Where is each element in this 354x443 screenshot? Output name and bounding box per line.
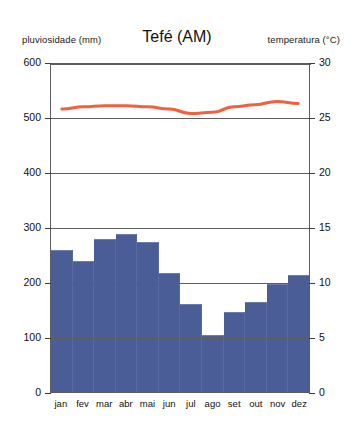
precipitation-bar bbox=[245, 302, 267, 392]
month-label: jan bbox=[50, 398, 72, 409]
month-label: out bbox=[245, 398, 267, 409]
climograph-figure: pluviosidade (mm) Tefé (AM) temperatura … bbox=[0, 0, 354, 443]
left-tick-label: 600 bbox=[23, 57, 41, 68]
axis-tick bbox=[309, 283, 315, 284]
left-tick-label: 500 bbox=[23, 112, 41, 123]
gridline bbox=[51, 338, 309, 339]
right-tick-label: 0 bbox=[319, 387, 325, 398]
right-tick-label: 10 bbox=[319, 277, 331, 288]
precipitation-bar bbox=[137, 242, 159, 392]
precipitation-bar bbox=[94, 239, 116, 392]
left-tick-label: 0 bbox=[35, 387, 41, 398]
gridline bbox=[51, 228, 309, 229]
month-label: ago bbox=[202, 398, 224, 409]
right-tick-label: 20 bbox=[319, 167, 331, 178]
precipitation-bar bbox=[224, 312, 246, 392]
gridline bbox=[51, 118, 309, 119]
axis-tick bbox=[309, 393, 315, 394]
right-tick-label: 15 bbox=[319, 222, 331, 233]
precipitation-bar bbox=[73, 261, 95, 392]
precipitation-bar bbox=[180, 304, 202, 392]
axis-tick bbox=[309, 173, 315, 174]
left-tick-label: 200 bbox=[23, 277, 41, 288]
axis-tick bbox=[309, 63, 315, 64]
axis-tick bbox=[45, 283, 51, 284]
left-tick-label: 300 bbox=[23, 222, 41, 233]
right-tick-label: 30 bbox=[319, 57, 331, 68]
axis-tick bbox=[45, 173, 51, 174]
left-tick-label: 400 bbox=[23, 167, 41, 178]
right-tick-label: 25 bbox=[319, 112, 331, 123]
month-label: mai bbox=[137, 398, 159, 409]
month-label: fev bbox=[72, 398, 94, 409]
month-label: nov bbox=[267, 398, 289, 409]
precipitation-bar bbox=[202, 335, 224, 392]
axis-tick bbox=[309, 118, 315, 119]
precipitation-bar bbox=[116, 234, 138, 392]
right-axis-caption: temperatura (°C) bbox=[268, 34, 340, 45]
precipitation-bar bbox=[288, 275, 309, 392]
axis-tick bbox=[45, 228, 51, 229]
month-axis-labels: janfevmarabrmaijunjulagosetoutnovdez bbox=[50, 398, 310, 409]
axis-tick bbox=[309, 338, 315, 339]
axis-tick bbox=[309, 228, 315, 229]
left-tick-label: 100 bbox=[23, 332, 41, 343]
axis-tick bbox=[45, 118, 51, 119]
chart-header: pluviosidade (mm) Tefé (AM) temperatura … bbox=[0, 34, 354, 56]
gridline bbox=[51, 173, 309, 174]
month-label: set bbox=[223, 398, 245, 409]
axis-tick bbox=[45, 338, 51, 339]
plot-area: 0100200300400500600 051015202530 bbox=[50, 63, 310, 393]
month-label: jun bbox=[158, 398, 180, 409]
month-label: jul bbox=[180, 398, 202, 409]
precipitation-bar bbox=[51, 250, 73, 392]
month-label: mar bbox=[93, 398, 115, 409]
month-label: dez bbox=[288, 398, 310, 409]
axis-tick bbox=[45, 63, 51, 64]
precipitation-bar bbox=[159, 273, 181, 392]
axis-tick bbox=[45, 393, 51, 394]
month-label: abr bbox=[115, 398, 137, 409]
right-tick-label: 5 bbox=[319, 332, 325, 343]
gridline bbox=[51, 283, 309, 284]
